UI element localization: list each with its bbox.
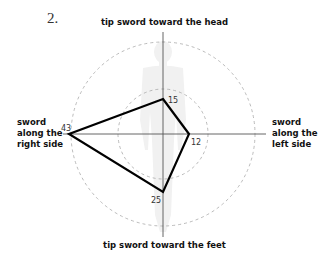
value-label-right: 12 <box>191 138 201 147</box>
value-label-top: 15 <box>168 96 178 105</box>
radar-chart: 15 12 25 43 <box>0 0 325 262</box>
value-label-left: 43 <box>61 124 71 133</box>
value-label-bottom: 25 <box>151 196 161 205</box>
